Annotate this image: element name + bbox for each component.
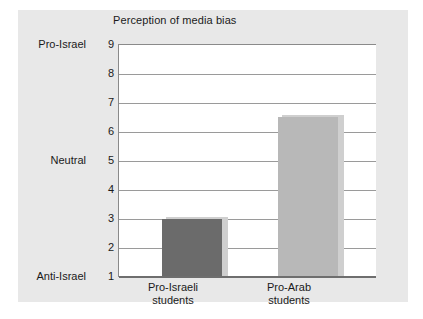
chart-figure: Perception of media bias Pro-Israel Neut… — [0, 0, 423, 319]
gridline-8 — [119, 74, 376, 75]
x-label-pro-arab-line1: Pro-Arab — [247, 281, 331, 294]
x-label-pro-arab-students: Pro-Arab students — [247, 281, 331, 307]
y-tick-4: 4 — [92, 183, 114, 195]
plot-inner — [119, 45, 376, 277]
gridline-7 — [119, 103, 376, 104]
x-label-pro-israeli-students: Pro-Israeli students — [131, 281, 215, 307]
y-category-label-anti-israel: Anti-Israel — [6, 270, 86, 282]
y-tick-5: 5 — [92, 154, 114, 166]
y-category-label-pro-israel: Pro-Israel — [6, 38, 86, 50]
y-tick-9: 9 — [92, 38, 114, 50]
x-label-pro-israeli-line2: students — [131, 294, 215, 307]
bar-pro-arab-students[interactable] — [278, 117, 338, 277]
y-axis-tick-labels: 9 8 7 6 5 4 3 2 1 — [90, 44, 114, 276]
y-tick-6: 6 — [92, 125, 114, 137]
y-tick-2: 2 — [92, 241, 114, 253]
plot-area — [118, 44, 376, 277]
x-label-pro-arab-line2: students — [247, 294, 331, 307]
bar-pro-israeli-students[interactable] — [162, 219, 222, 277]
x-label-pro-israeli-line1: Pro-Israeli — [131, 281, 215, 294]
y-tick-7: 7 — [92, 96, 114, 108]
y-tick-3: 3 — [92, 212, 114, 224]
chart-title: Perception of media bias — [113, 14, 236, 26]
y-axis-category-labels: Pro-Israel Neutral Anti-Israel — [8, 44, 86, 276]
y-tick-1: 1 — [92, 270, 114, 282]
y-category-label-neutral: Neutral — [6, 154, 86, 166]
y-tick-8: 8 — [92, 67, 114, 79]
x-axis-line — [119, 276, 376, 278]
